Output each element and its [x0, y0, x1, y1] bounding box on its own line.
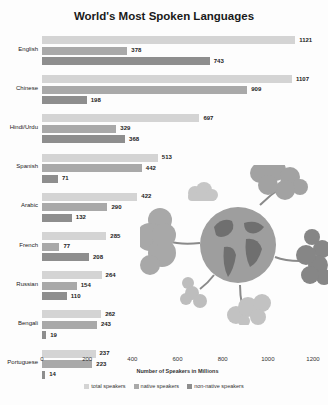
- value-label: 243: [101, 321, 111, 327]
- bar-total: [42, 36, 295, 44]
- value-label: 132: [76, 214, 86, 220]
- bar-total: [42, 114, 199, 122]
- bar-nonnative: [42, 96, 87, 104]
- value-label: 77: [63, 243, 70, 249]
- value-label: 909: [251, 86, 261, 92]
- value-label: 378: [131, 47, 141, 53]
- globe-illustration: [140, 165, 328, 325]
- x-tick: 400: [127, 356, 137, 362]
- bar-native: [42, 125, 116, 133]
- value-label: 743: [214, 58, 224, 64]
- legend-item: native speakers: [134, 383, 180, 389]
- legend-swatch-icon: [187, 384, 192, 389]
- x-tick: 800: [218, 356, 228, 362]
- x-tick: 1200: [306, 356, 319, 362]
- x-tick: 1000: [261, 356, 274, 362]
- bar-native: [42, 47, 127, 55]
- bar-nonnative: [42, 214, 72, 222]
- category-label: French: [0, 242, 38, 248]
- category-label: Russian: [0, 281, 38, 287]
- bar-nonnative: [42, 292, 67, 300]
- value-label: 368: [129, 136, 139, 142]
- value-label: 329: [120, 125, 130, 131]
- legend-item: non-native speakers: [187, 383, 244, 389]
- value-label: 19: [50, 332, 57, 338]
- value-label: 198: [91, 97, 101, 103]
- value-label: 208: [93, 254, 103, 260]
- bar-total: [42, 232, 106, 240]
- bar-nonnative: [42, 253, 89, 261]
- category-label: Chinese: [0, 85, 38, 91]
- category-label: Hindi/Urdu: [0, 124, 38, 130]
- legend-label: native speakers: [141, 383, 180, 389]
- value-label: 290: [111, 204, 121, 210]
- value-label: 697: [203, 115, 213, 121]
- value-label: 1107: [296, 76, 309, 82]
- value-label: 285: [110, 233, 120, 239]
- bar-native: [42, 203, 107, 211]
- value-label: 264: [106, 272, 116, 278]
- bar-native: [42, 86, 247, 94]
- legend-label: total speakers: [91, 383, 125, 389]
- value-label: 223: [96, 361, 106, 367]
- bar-total: [42, 310, 101, 318]
- globe-with-clouds-icon: [140, 165, 328, 325]
- value-label: 71: [62, 175, 69, 181]
- legend-label: non-native speakers: [194, 383, 244, 389]
- value-label: 110: [71, 293, 81, 299]
- value-label: 154: [81, 282, 91, 288]
- category-label: Spanish: [0, 163, 38, 169]
- x-tick: 200: [82, 356, 92, 362]
- bar-native: [42, 282, 77, 290]
- category-label: English: [0, 46, 38, 52]
- x-axis-label: Number of Speakers in Millions: [0, 368, 328, 374]
- bar-nonnative: [42, 175, 58, 183]
- bar-native: [42, 321, 97, 329]
- category-label: Bengali: [0, 320, 38, 326]
- bar-native: [42, 164, 142, 172]
- legend-item: total speakers: [84, 383, 125, 389]
- category-label: Portuguese: [0, 359, 38, 365]
- bar-total: [42, 154, 158, 162]
- value-label: 237: [100, 350, 110, 356]
- legend-swatch-icon: [134, 384, 139, 389]
- value-label: 1121: [299, 37, 312, 43]
- x-tick: 600: [172, 356, 182, 362]
- bar-nonnative: [42, 135, 125, 143]
- bar-native: [42, 243, 59, 251]
- value-label: 262: [105, 311, 115, 317]
- bar-total: [42, 193, 137, 201]
- x-tick: 0: [40, 356, 43, 362]
- category-label: Arabic: [0, 202, 38, 208]
- legend: total speakersnative speakersnon-native …: [0, 383, 328, 389]
- value-label: 513: [162, 154, 172, 160]
- bar-total: [42, 75, 292, 83]
- bar-total: [42, 271, 102, 279]
- legend-swatch-icon: [84, 384, 89, 389]
- bar-nonnative: [42, 331, 46, 339]
- bar-nonnative: [42, 57, 210, 65]
